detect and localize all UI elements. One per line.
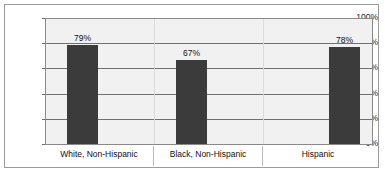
bar-white-non-hispanic[interactable] [67, 45, 98, 144]
category-label-black-non-hispanic: Black, Non-Hispanic [154, 149, 262, 160]
plot-divider-1 [154, 19, 155, 144]
bar-value-hispanic: 78% [324, 35, 365, 45]
bar-value-white-non-hispanic: 79% [62, 33, 103, 43]
bar-value-black-non-hispanic: 67% [171, 48, 212, 58]
category-label-white-non-hispanic: White, Non-Hispanic [45, 149, 153, 160]
x-axis: White, Non-Hispanic Black, Non-Hispanic … [45, 146, 373, 166]
plot-divider-2 [263, 19, 264, 144]
category-label-hispanic: Hispanic [263, 149, 373, 160]
plot-area: 79% 67% 78% [45, 18, 373, 145]
chart-frame: 100% 80% 60% 40% 20% 0% 79% 67% 78% [4, 4, 379, 168]
bar-black-non-hispanic[interactable] [176, 60, 207, 144]
bar-hispanic[interactable] [329, 47, 360, 145]
